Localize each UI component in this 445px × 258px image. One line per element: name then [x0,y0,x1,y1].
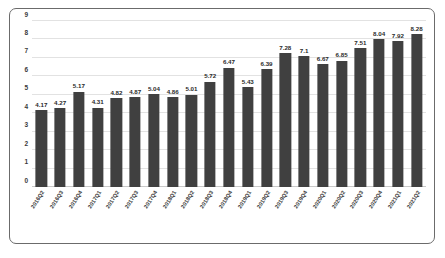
bar[interactable] [355,48,366,187]
bar[interactable] [167,97,178,187]
bar[interactable] [130,97,141,187]
bar-value-label: 6.85 [336,52,348,58]
x-axis-tick-label: 2021Q1 [387,190,402,210]
bar-value-label: 4.31 [92,99,104,105]
bar[interactable] [392,41,403,187]
x-axis-tick-label: 2017Q2 [106,190,121,210]
x-axis-label-slot: 2017Q3 [126,190,145,242]
x-axis-tick-label: 2017Q1 [87,190,102,210]
bar-slot: 6.85 [332,21,351,187]
bar[interactable] [186,95,197,187]
x-axis-tick-label: 2019Q4 [293,190,308,210]
bar[interactable] [242,87,253,187]
x-axis-label-slot: 2018Q4 [220,190,239,242]
x-axis-tick-label: 2019Q2 [256,190,271,210]
x-axis-label-slot: 2019Q2 [257,190,276,242]
x-axis-label-slot: 2016Q2 [32,190,51,242]
bar-value-label: 4.86 [167,89,179,95]
bar[interactable] [92,108,103,187]
x-axis-tick-labels: 2016Q22016Q32016Q42017Q12017Q22017Q32017… [32,187,426,243]
y-axis-tick-label: 3 [24,122,28,129]
bar-slot: 4.27 [51,21,70,187]
bar-slot: 4.82 [107,21,126,187]
bar-value-label: 8.28 [411,26,423,32]
bar-value-label: 4.87 [129,89,141,95]
bar[interactable] [261,69,272,187]
x-axis-label-slot: 2019Q1 [238,190,257,242]
y-axis-tick-label: 2 [24,140,28,147]
bar[interactable] [223,68,234,187]
bar-slot: 4.31 [88,21,107,187]
x-axis-tick-label: 2018Q2 [181,190,196,210]
bar[interactable] [373,39,384,187]
bar[interactable] [411,34,422,187]
x-axis-label-slot: 2017Q2 [107,190,126,242]
bar-series: 4.174.275.174.314.824.875.044.865.015.72… [32,21,426,187]
bar-slot: 7.92 [388,21,407,187]
x-axis-label-slot: 2021Q2 [407,190,426,242]
x-axis-tick-label: 2016Q3 [50,190,65,210]
bar[interactable] [111,98,122,187]
x-axis-label-slot: 2018Q3 [201,190,220,242]
bar-value-label: 5.01 [185,86,197,92]
x-axis-label-slot: 2021Q1 [388,190,407,242]
bar-value-label: 6.67 [317,56,329,62]
x-axis-label-slot: 2019Q3 [276,190,295,242]
bar-slot: 7.28 [276,21,295,187]
x-axis-tick-label: 2021Q2 [406,190,421,210]
bar[interactable] [280,53,291,187]
bar-value-label: 7.28 [279,45,291,51]
bar-slot: 8.04 [370,21,389,187]
bar-value-label: 4.17 [35,102,47,108]
chart-frame: 0123456789 4.174.275.174.314.824.875.044… [9,8,435,244]
bar-slot: 6.47 [220,21,239,187]
bar[interactable] [317,64,328,187]
bar[interactable] [148,94,159,187]
x-axis-label-slot: 2020Q3 [351,190,370,242]
bar-value-label: 7.92 [392,33,404,39]
x-axis-label-slot: 2019Q4 [295,190,314,242]
x-axis-tick-label: 2018Q4 [218,190,233,210]
x-axis-tick-label: 2020Q3 [350,190,365,210]
bar-value-label: 4.27 [54,100,66,106]
x-axis-tick-label: 2018Q3 [200,190,215,210]
x-axis-tick-label: 2020Q1 [312,190,327,210]
bar-value-label: 8.04 [373,31,385,37]
bar[interactable] [73,92,84,187]
y-axis-tick-label: 0 [24,177,28,184]
bar-slot: 8.28 [407,21,426,187]
bar[interactable] [36,110,47,187]
y-axis-tick-label: 6 [24,67,28,74]
x-axis-label-slot: 2016Q3 [51,190,70,242]
x-axis-tick-label: 2016Q2 [31,190,46,210]
x-axis-label-slot: 2017Q4 [145,190,164,242]
bar-slot: 5.72 [201,21,220,187]
x-axis-tick-label: 2016Q4 [68,190,83,210]
x-axis-label-slot: 2020Q2 [332,190,351,242]
bar-value-label: 4.82 [110,90,122,96]
bar-slot: 7.51 [351,21,370,187]
bar[interactable] [205,82,216,188]
bar[interactable] [55,108,66,187]
y-axis-tick-label: 1 [24,159,28,166]
bar-value-label: 5.72 [204,73,216,79]
bar-slot: 4.17 [32,21,51,187]
bar-slot: 5.17 [70,21,89,187]
bar-slot: 6.39 [257,21,276,187]
bar-slot: 4.87 [126,21,145,187]
x-axis-label-slot: 2018Q1 [163,190,182,242]
bar[interactable] [336,61,347,187]
x-axis-tick-label: 2020Q4 [369,190,384,210]
x-axis-tick-label: 2019Q3 [275,190,290,210]
x-axis-label-slot: 2017Q1 [88,190,107,242]
x-axis-label-slot: 2016Q4 [70,190,89,242]
y-axis-tick-label: 5 [24,85,28,92]
x-axis-tick-label: 2019Q1 [237,190,252,210]
bar[interactable] [298,56,309,187]
y-axis-tick-label: 4 [24,103,28,110]
bar-slot: 5.04 [145,21,164,187]
bar-value-label: 7.51 [354,40,366,46]
x-axis-tick-label: 2020Q2 [331,190,346,210]
x-axis-tick-label: 2017Q3 [125,190,140,210]
y-axis-tick-label: 9 [24,11,28,18]
